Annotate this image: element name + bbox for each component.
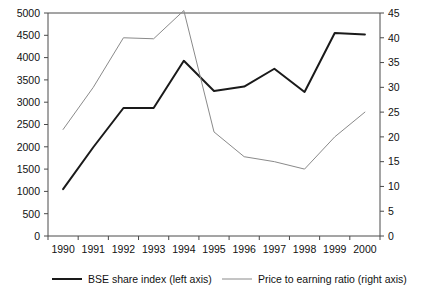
left-axis-tick-label: 2500 bbox=[17, 118, 41, 130]
x-axis-tick-label: 1992 bbox=[112, 243, 136, 255]
chart-container: 0500100015002000250030003500400045005000… bbox=[0, 0, 427, 301]
series-line-1 bbox=[63, 33, 365, 189]
x-axis-tick-label: 1994 bbox=[172, 243, 196, 255]
dual-axis-line-chart: 0500100015002000250030003500400045005000… bbox=[0, 0, 427, 301]
x-axis-tick-label: 1999 bbox=[323, 243, 347, 255]
x-axis-tick-label: 1997 bbox=[263, 243, 287, 255]
right-axis-tick-label: 25 bbox=[388, 106, 400, 118]
left-axis-tick-label: 0 bbox=[34, 230, 40, 242]
left-axis-tick-label: 2000 bbox=[17, 141, 41, 153]
right-axis-tick-label: 0 bbox=[388, 230, 394, 242]
left-axis-tick-label: 500 bbox=[22, 208, 40, 220]
left-axis-tick-label: 4000 bbox=[17, 51, 41, 63]
right-axis-tick-label: 20 bbox=[388, 131, 400, 143]
x-axis-tick-label: 1998 bbox=[293, 243, 317, 255]
left-axis-tick-label: 3500 bbox=[17, 74, 41, 86]
x-axis-tick-label: 1991 bbox=[82, 243, 106, 255]
legend-label-2: Price to earning ratio (right axis) bbox=[258, 273, 407, 285]
right-axis-tick-label: 45 bbox=[388, 7, 400, 19]
chart-legend: BSE share index (left axis)Price to earn… bbox=[52, 273, 407, 285]
x-axis-tick-label: 1996 bbox=[233, 243, 257, 255]
x-axis-tick-label: 1990 bbox=[51, 243, 75, 255]
left-axis: 0500100015002000250030003500400045005000 bbox=[17, 7, 48, 242]
right-axis-tick-label: 10 bbox=[388, 180, 400, 192]
legend-label-1: BSE share index (left axis) bbox=[88, 273, 212, 285]
x-axis: 1990199119921993199419951996199719981999… bbox=[48, 13, 380, 255]
left-axis-tick-label: 5000 bbox=[17, 7, 41, 19]
right-axis-tick-label: 30 bbox=[388, 81, 400, 93]
right-axis-tick-label: 35 bbox=[388, 56, 400, 68]
right-axis: 051015202530354045 bbox=[380, 7, 400, 242]
right-axis-tick-label: 40 bbox=[388, 32, 400, 44]
left-axis-tick-label: 1000 bbox=[17, 185, 41, 197]
right-axis-tick-label: 15 bbox=[388, 155, 400, 167]
x-axis-tick-label: 1995 bbox=[202, 243, 226, 255]
plot-area bbox=[63, 11, 365, 190]
left-axis-tick-label: 4500 bbox=[17, 29, 41, 41]
x-axis-tick-label: 2000 bbox=[353, 243, 377, 255]
right-axis-tick-label: 5 bbox=[388, 205, 394, 217]
x-axis-tick-label: 1993 bbox=[142, 243, 166, 255]
left-axis-tick-label: 1500 bbox=[17, 163, 41, 175]
left-axis-tick-label: 3000 bbox=[17, 96, 41, 108]
